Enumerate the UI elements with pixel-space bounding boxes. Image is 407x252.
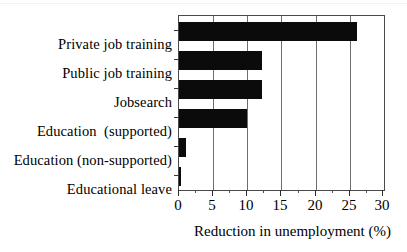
x-axis-tick-major	[280, 190, 281, 196]
bar-education-supported	[179, 109, 247, 128]
x-axis-label: 15	[265, 197, 295, 214]
gridline-15	[281, 16, 282, 190]
x-axis-tick-major	[382, 190, 383, 196]
gridline-5	[213, 16, 214, 190]
x-axis-label: 20	[300, 197, 330, 214]
gridline-25	[350, 16, 351, 190]
bar-education-non-supported	[179, 138, 186, 157]
x-axis-tick-minor	[298, 190, 299, 193]
scan-artifact-line	[0, 3, 407, 4]
bar-jobsearch	[179, 80, 262, 99]
category-axis: Private job training Public job training…	[0, 15, 176, 189]
x-axis-label: 25	[334, 197, 364, 214]
x-axis-tick-major	[212, 190, 213, 196]
category-label: Education (non-supported)	[14, 151, 172, 169]
x-axis-tick-major	[349, 190, 350, 196]
x-axis-tick-minor	[366, 190, 367, 193]
bar-public-job-training	[179, 51, 262, 70]
x-axis-tick-minor	[195, 190, 196, 193]
gridline-10	[247, 16, 248, 190]
x-axis-tick-major	[246, 190, 247, 196]
category-label: Public job training	[62, 64, 172, 82]
x-axis-tick-minor	[332, 190, 333, 193]
x-axis-tick-minor	[229, 190, 230, 193]
bar-chart-figure: Private job training Public job training…	[0, 0, 407, 252]
x-axis-label: 10	[231, 197, 261, 214]
x-axis-tick-minor	[263, 190, 264, 193]
x-axis-title: Reduction in unemployment (%)	[178, 222, 407, 240]
x-axis-tick-major	[178, 190, 179, 196]
x-axis-label: 30	[367, 197, 397, 214]
gridline-20	[316, 16, 317, 190]
category-label: Educational leave	[67, 180, 172, 198]
plot-area	[178, 15, 385, 191]
category-label: Jobsearch	[114, 93, 172, 111]
x-axis-tick-major	[315, 190, 316, 196]
x-axis-label: 5	[197, 197, 227, 214]
category-label: Education (supported)	[37, 122, 172, 140]
bar-educational-leave	[179, 167, 181, 186]
category-label: Private job training	[58, 35, 172, 53]
plot-inner	[179, 16, 384, 190]
bar-private-job-training	[179, 22, 357, 41]
x-axis: 0 5 10 15 20 25 30	[178, 190, 383, 220]
x-axis-label: 0	[163, 197, 193, 214]
